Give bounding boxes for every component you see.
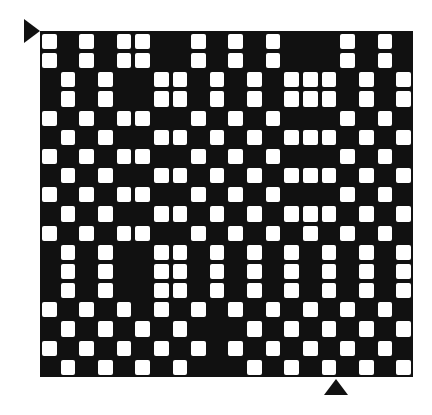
warp-cell: [394, 109, 413, 128]
weft-cell: [208, 89, 227, 108]
weft-cell: [245, 243, 264, 262]
warp-cell: [115, 89, 134, 108]
weft-cell: [301, 70, 320, 89]
warp-cell: [282, 109, 301, 128]
warp-cell: [264, 89, 283, 108]
warp-cell: [40, 89, 59, 108]
warp-cell: [338, 243, 357, 262]
weft-cell: [189, 147, 208, 166]
warp-cell: [394, 147, 413, 166]
warp-cell: [96, 339, 115, 358]
warp-cell: [59, 109, 78, 128]
weft-cell: [394, 319, 413, 338]
warp-cell: [77, 243, 96, 262]
warp-cell: [394, 339, 413, 358]
weft-cell: [376, 185, 395, 204]
weft-cell: [115, 32, 134, 51]
weft-cell: [338, 300, 357, 319]
warp-cell: [357, 300, 376, 319]
warp-cell: [357, 109, 376, 128]
warp-cell: [208, 224, 227, 243]
weft-cell: [394, 262, 413, 281]
weft-cell: [77, 224, 96, 243]
weft-cell: [226, 51, 245, 70]
weft-cell: [226, 32, 245, 51]
weft-cell: [338, 339, 357, 358]
warp-cell: [226, 319, 245, 338]
warp-cell: [245, 224, 264, 243]
warp-cell: [40, 128, 59, 147]
weft-cell: [133, 185, 152, 204]
warp-cell: [226, 358, 245, 377]
warp-cell: [59, 300, 78, 319]
weft-cell: [320, 262, 339, 281]
weft-cell: [264, 185, 283, 204]
weft-cell: [282, 262, 301, 281]
weft-cell: [171, 262, 190, 281]
weft-cell: [357, 128, 376, 147]
warp-cell: [357, 339, 376, 358]
warp-cell: [171, 32, 190, 51]
weft-cell: [376, 224, 395, 243]
weft-cell: [282, 70, 301, 89]
warp-cell: [171, 224, 190, 243]
weft-cell: [226, 109, 245, 128]
weft-cell: [282, 281, 301, 300]
weft-cell: [245, 204, 264, 223]
warp-cell: [357, 51, 376, 70]
weft-cell: [245, 128, 264, 147]
warp-cell: [282, 339, 301, 358]
weft-cell: [152, 128, 171, 147]
weft-cell: [208, 262, 227, 281]
weft-cell: [77, 109, 96, 128]
weft-cell: [357, 166, 376, 185]
weft-cell: [40, 51, 59, 70]
warp-cell: [189, 70, 208, 89]
weft-cell: [133, 358, 152, 377]
weft-cell: [394, 89, 413, 108]
weft-cell: [357, 358, 376, 377]
warp-cell: [320, 147, 339, 166]
weft-cell: [59, 89, 78, 108]
warp-cell: [226, 70, 245, 89]
warp-cell: [189, 204, 208, 223]
weft-cell: [40, 339, 59, 358]
warp-cell: [264, 204, 283, 223]
warp-cell: [96, 109, 115, 128]
weft-cell: [171, 243, 190, 262]
weft-cell: [171, 204, 190, 223]
weft-cell: [357, 70, 376, 89]
warp-cell: [245, 109, 264, 128]
weft-cell: [77, 51, 96, 70]
weft-cell: [264, 51, 283, 70]
weft-cell: [152, 89, 171, 108]
warp-cell: [357, 32, 376, 51]
warp-cell: [96, 185, 115, 204]
warp-cell: [245, 147, 264, 166]
weft-cell: [189, 32, 208, 51]
weft-cell: [245, 70, 264, 89]
warp-cell: [282, 147, 301, 166]
weft-cell: [282, 128, 301, 147]
warp-cell: [376, 89, 395, 108]
warp-cell: [338, 358, 357, 377]
warp-cell: [208, 51, 227, 70]
weft-cell: [245, 319, 264, 338]
weft-cell: [115, 147, 134, 166]
warp-cell: [376, 128, 395, 147]
weft-cell: [77, 185, 96, 204]
weft-cell: [245, 358, 264, 377]
warp-cell: [357, 147, 376, 166]
weft-cell: [301, 224, 320, 243]
weft-cell: [376, 339, 395, 358]
weft-cell: [171, 358, 190, 377]
weft-cell: [171, 166, 190, 185]
weft-cell: [376, 109, 395, 128]
weft-cell: [264, 300, 283, 319]
weft-cell: [96, 358, 115, 377]
warp-cell: [226, 281, 245, 300]
warp-cell: [226, 204, 245, 223]
warp-cell: [40, 70, 59, 89]
warp-cell: [133, 243, 152, 262]
warp-cell: [189, 358, 208, 377]
